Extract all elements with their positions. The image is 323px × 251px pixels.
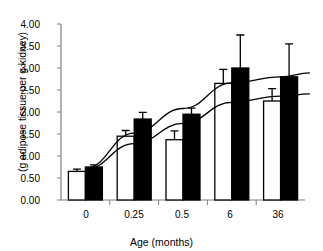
error-bar-black-6 — [236, 35, 244, 68]
error-bar-black-0.5 — [188, 108, 196, 114]
bar-white-6 — [215, 83, 232, 200]
error-bar-black-0.25 — [139, 112, 147, 119]
error-bar-black-36 — [285, 44, 293, 77]
error-bar-white-36 — [268, 89, 276, 101]
bar-black-0 — [85, 167, 102, 200]
bar-black-6 — [232, 68, 249, 200]
bar-white-0.5 — [166, 140, 183, 200]
bar-black-0.5 — [183, 114, 200, 200]
error-bar-white-0.5 — [171, 131, 179, 140]
error-bar-white-6 — [219, 69, 227, 83]
plot-area — [0, 0, 323, 251]
bar-white-36 — [264, 101, 281, 200]
bar-white-0 — [68, 171, 85, 200]
chart-figure: (g adipose tissue per g kidney) Age (mon… — [0, 0, 323, 251]
